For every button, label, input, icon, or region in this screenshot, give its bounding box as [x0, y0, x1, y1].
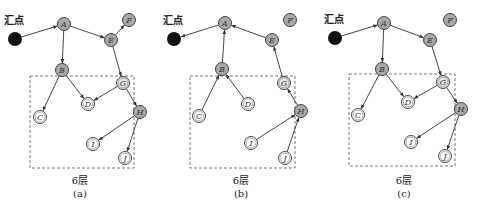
edge-E-A	[232, 25, 266, 37]
node-label: E	[268, 36, 275, 45]
node-label: C	[37, 113, 43, 122]
layer-box	[30, 76, 134, 168]
node-label: E	[107, 36, 114, 45]
node-B: B	[56, 64, 69, 77]
panel-c: 汇点AEFBGDCHIJ6层(c)	[324, 13, 468, 199]
node-E: E	[266, 34, 279, 47]
node-label: G	[120, 79, 127, 88]
node-label: G	[440, 78, 447, 87]
edge-A-sink	[181, 25, 219, 37]
node-label: H	[136, 108, 145, 117]
node-label: B	[58, 66, 65, 75]
layer-label: 6层	[233, 175, 249, 186]
edge-G-D	[414, 85, 437, 98]
edge-B-C	[43, 76, 59, 111]
node-G: G	[437, 76, 450, 89]
edge-E-G	[113, 46, 121, 76]
panel-b: 汇点AEFBGDCHIJ6层(b)	[163, 14, 308, 200]
node-G: G	[117, 77, 130, 90]
node-label: F	[125, 16, 132, 25]
node-label: A	[60, 20, 67, 29]
node-J: J	[119, 152, 132, 165]
panel-caption: (c)	[397, 188, 411, 199]
edge-H-G	[288, 89, 298, 105]
node-B: B	[376, 63, 389, 76]
edge-G-H	[447, 87, 458, 103]
node-H: H	[134, 106, 147, 119]
node-label: F	[446, 16, 453, 25]
edge-A-B	[62, 30, 63, 63]
edge-E-G	[432, 46, 441, 75]
node-label: D	[244, 100, 252, 109]
node-label: D	[404, 98, 412, 107]
panel-caption: (b)	[234, 188, 248, 199]
panel-a: 汇点AEFBGDCHIJ6层(a)	[4, 14, 147, 200]
edge-H-I	[99, 116, 135, 140]
node-J: J	[439, 150, 452, 163]
edge-G-D	[94, 86, 117, 100]
node-label: F	[286, 16, 293, 25]
node-E: E	[424, 34, 437, 47]
edge-G-H	[126, 89, 136, 106]
node-C: C	[193, 110, 206, 123]
node-B: B	[216, 63, 229, 76]
node-A: A	[378, 17, 391, 30]
node-E: E	[105, 34, 118, 47]
sink-label: 汇点	[163, 14, 183, 26]
node-label: C	[355, 111, 361, 120]
node-F: F	[284, 14, 297, 27]
node-A: A	[219, 17, 232, 30]
edge-J-H	[287, 118, 299, 152]
node-J: J	[279, 152, 292, 165]
node-D: D	[82, 98, 95, 111]
node-H: H	[295, 105, 308, 118]
edge-sink-A	[342, 25, 378, 36]
edge-A-B	[382, 29, 383, 62]
sink-node	[328, 31, 342, 45]
edge-A-E	[390, 25, 423, 37]
node-G: G	[278, 77, 291, 90]
network-diagram: 汇点AEFBGDCHIJ6层(a)汇点AEFBGDCHIJ6层(b)汇点AEFB…	[0, 0, 478, 207]
node-label: C	[196, 112, 202, 121]
edge-B-D	[66, 75, 84, 98]
edge-E-F	[115, 25, 124, 35]
node-F: F	[444, 14, 457, 27]
node-label: E	[426, 36, 433, 45]
layer-label: 6层	[396, 175, 412, 186]
node-C: C	[34, 111, 47, 124]
edge-H-I	[417, 113, 456, 139]
node-I: I	[405, 136, 418, 149]
node-F: F	[123, 14, 136, 27]
sink-label: 汇点	[324, 13, 344, 25]
node-label: A	[380, 19, 387, 28]
node-D: D	[242, 98, 255, 111]
edge-I-H	[256, 115, 295, 140]
node-label: A	[221, 19, 228, 28]
sink-node	[8, 32, 22, 46]
layer-box	[349, 74, 455, 166]
node-C: C	[352, 109, 365, 122]
node-H: H	[455, 103, 468, 116]
edge-H-J	[127, 118, 138, 151]
edge-H-J	[447, 115, 459, 149]
node-A: A	[58, 18, 71, 31]
node-label: H	[297, 107, 306, 116]
node-label: H	[457, 105, 466, 114]
edge-A-E	[70, 26, 104, 38]
edge-B-D	[386, 74, 404, 96]
edge-D-B	[226, 75, 244, 99]
edge-sink-A	[22, 26, 58, 37]
node-I: I	[87, 138, 100, 151]
edge-C-B	[202, 75, 219, 110]
node-I: I	[245, 137, 258, 150]
node-label: D	[84, 100, 92, 109]
node-label: G	[281, 79, 288, 88]
node-label: B	[378, 65, 385, 74]
panel-caption: (a)	[73, 188, 87, 199]
node-label: B	[218, 65, 225, 74]
sink-label: 汇点	[4, 14, 24, 26]
node-D: D	[402, 96, 415, 109]
layer-label: 6层	[72, 175, 88, 186]
edge-G-E	[274, 47, 282, 77]
sink-node	[167, 32, 181, 46]
